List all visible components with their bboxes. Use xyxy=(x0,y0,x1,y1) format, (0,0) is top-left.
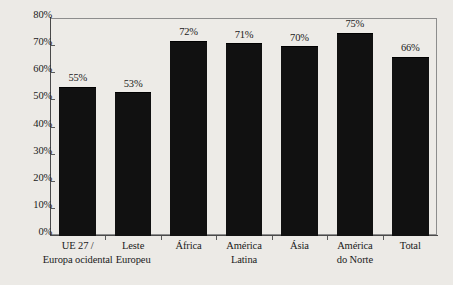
bar[interactable] xyxy=(392,57,429,236)
bar[interactable] xyxy=(337,33,374,236)
bar-value-label: 53% xyxy=(103,79,164,90)
bar-value-label: 70% xyxy=(269,33,330,44)
bar[interactable] xyxy=(115,92,152,236)
category-label-line: Europeu xyxy=(96,253,170,267)
bar-value-label: 55% xyxy=(47,73,108,84)
category-labels: UE 27 /Europa ocidentalLesteEuropeuÁfric… xyxy=(50,239,438,283)
bar-value-label: 72% xyxy=(158,27,219,38)
bar-value-label: 71% xyxy=(214,30,275,41)
bar[interactable] xyxy=(226,43,263,236)
bar-slot: 66% xyxy=(392,18,429,236)
bar-slot: 70% xyxy=(281,18,318,236)
category-label-line: do Norte xyxy=(318,253,392,267)
bar[interactable] xyxy=(59,87,96,236)
bars-layer: 55%53%72%71%70%75%66% xyxy=(50,18,438,236)
bar-value-label: 66% xyxy=(380,43,441,54)
bar-slot: 55% xyxy=(59,18,96,236)
bar-slot: 71% xyxy=(226,18,263,236)
category-label-line: Latina xyxy=(207,253,281,267)
bar[interactable] xyxy=(170,41,207,236)
category-label-line: Total xyxy=(373,239,447,253)
bar-slot: 53% xyxy=(115,18,152,236)
bar-slot: 72% xyxy=(170,18,207,236)
bar-value-label: 75% xyxy=(325,19,386,30)
bar[interactable] xyxy=(281,46,318,236)
bar-slot: 75% xyxy=(337,18,374,236)
category-label: Total xyxy=(373,239,447,253)
bar-chart: 0%10%20%30%40%50%60%70%80% 55%53%72%71%7… xyxy=(0,0,453,285)
